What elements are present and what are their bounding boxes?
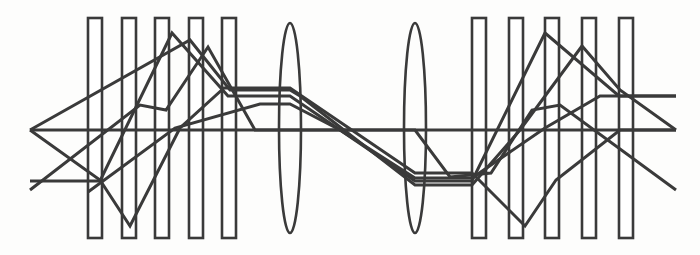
optical-diagram-figure: [0, 0, 700, 255]
right-plate-group-bar-5: [619, 18, 633, 238]
left-plate-group-bar-5: [222, 18, 236, 238]
ray-diagram-canvas: [0, 0, 700, 255]
left-plate-group-bar-4: [189, 18, 203, 238]
right-plate-group-bar-1: [472, 18, 486, 238]
left-plate-group-bar-2: [122, 18, 136, 238]
left-plate-group-bar-1: [88, 18, 102, 238]
